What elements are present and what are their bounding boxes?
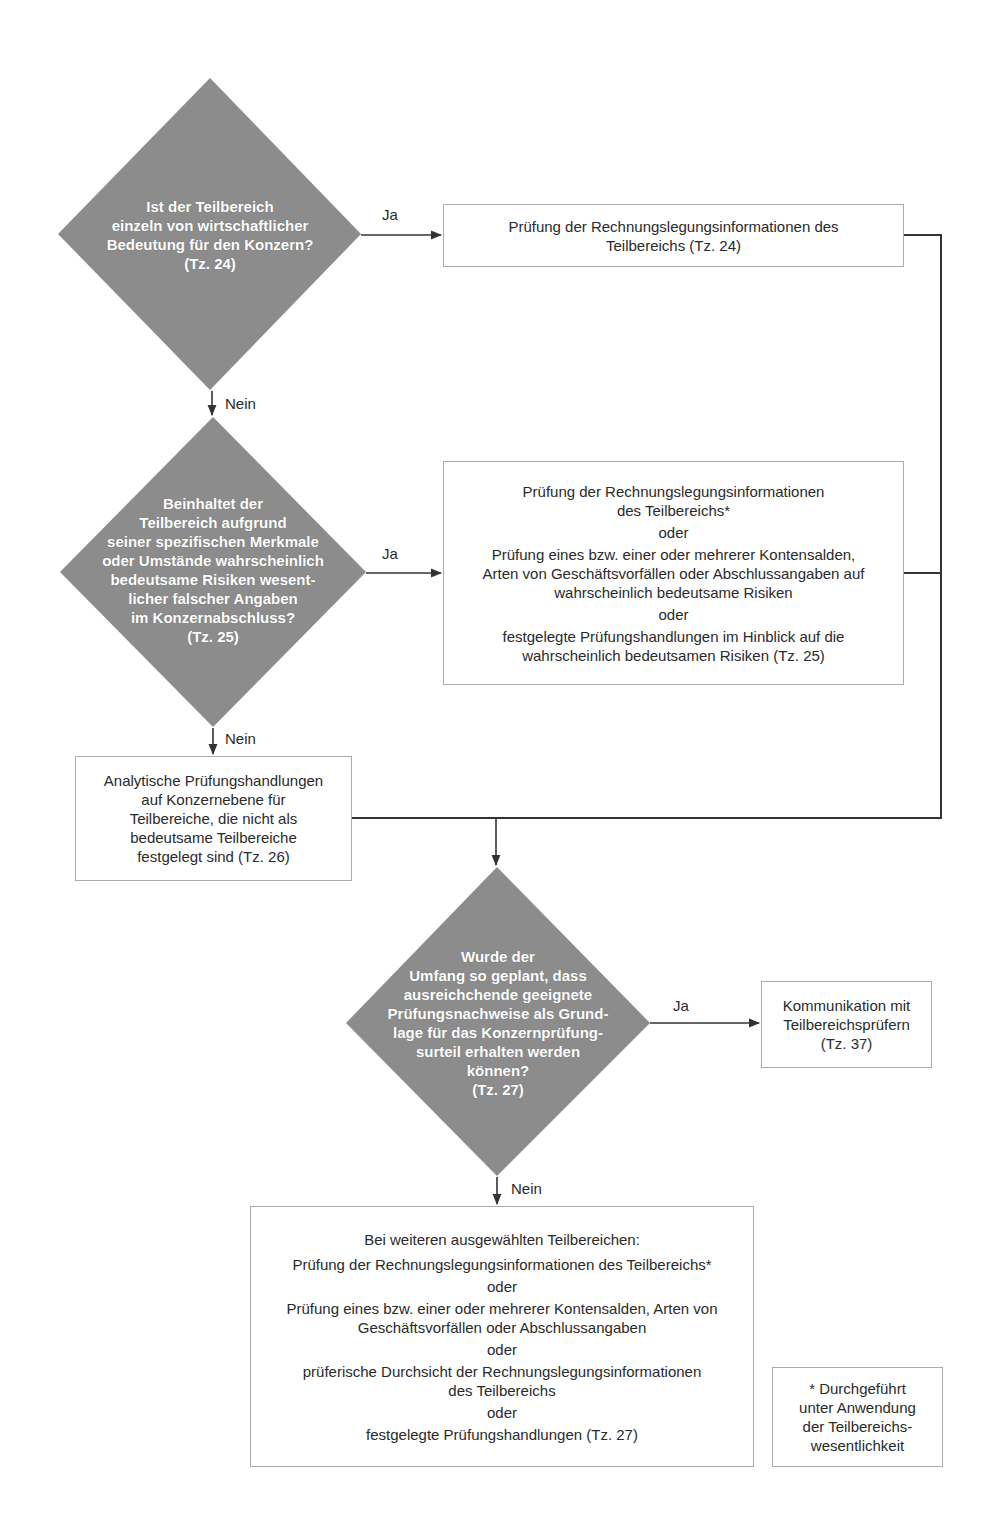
- process-box-2: Prüfung der Rechnungslegungsinformatione…: [443, 461, 904, 685]
- box-5-or-3: oder: [487, 1403, 517, 1422]
- box-2-option-1: Prüfung der Rechnungslegungsinformatione…: [523, 482, 825, 520]
- footnote-box: * Durchgeführt unter Anwendung der Teilb…: [772, 1367, 943, 1467]
- box-2-or-2: oder: [658, 605, 688, 624]
- box-5-option-1: Prüfung der Rechnungslegungsinformatione…: [292, 1255, 711, 1274]
- decision-2-text: Beinhaltet der Teilbereich aufgrund sein…: [60, 480, 366, 660]
- process-box-5: Bei weiteren ausgewählten Teilbereichen:…: [250, 1206, 754, 1467]
- box-5-or-2: oder: [487, 1340, 517, 1359]
- box-5-intro: Bei weiteren ausgewählten Teilbereichen:: [364, 1230, 640, 1249]
- box-5-or-1: oder: [487, 1277, 517, 1296]
- process-box-1: Prüfung der Rechnungslegungsinformatione…: [443, 204, 904, 267]
- box-2-or-1: oder: [658, 523, 688, 542]
- edge-label-d2-no: Nein: [225, 730, 256, 748]
- flowchart-canvas: Ist der Teilbereich einzeln von wirtscha…: [0, 0, 997, 1540]
- edge-label-d1-no: Nein: [225, 395, 256, 413]
- edge-label-d1-yes: Ja: [382, 206, 398, 224]
- edge-label-d2-yes: Ja: [382, 545, 398, 563]
- box-5-option-3: prüferische Durchsicht der Rechnungslegu…: [303, 1362, 702, 1400]
- edge-label-d3-no: Nein: [511, 1180, 542, 1198]
- process-box-3: Analytische Prüfungshandlungen auf Konze…: [75, 756, 352, 881]
- box-2-option-2: Prüfung eines bzw. einer oder mehrerer K…: [483, 545, 865, 602]
- box-4-text: Kommunikation mit Teilbereichsprüfern (T…: [783, 996, 911, 1053]
- footnote-text: * Durchgeführt unter Anwendung der Teilb…: [799, 1379, 916, 1455]
- connector-b1-rail: [903, 235, 941, 818]
- box-1-text: Prüfung der Rechnungslegungsinformatione…: [508, 217, 838, 255]
- edge-label-d3-yes: Ja: [673, 997, 689, 1015]
- process-box-4: Kommunikation mit Teilbereichsprüfern (T…: [761, 981, 932, 1068]
- box-2-option-3: festgelegte Prüfungshandlungen im Hinbli…: [503, 627, 845, 665]
- box-5-option-2: Prüfung eines bzw. einer oder mehrerer K…: [286, 1299, 717, 1337]
- decision-1-text: Ist der Teilbereich einzeln von wirtscha…: [60, 160, 360, 310]
- box-5-option-4: festgelegte Prüfungshandlungen (Tz. 27): [366, 1425, 638, 1444]
- box-3-text: Analytische Prüfungshandlungen auf Konze…: [104, 771, 323, 866]
- decision-3-text: Wurde der Umfang so geplant, dass ausrei…: [346, 940, 650, 1105]
